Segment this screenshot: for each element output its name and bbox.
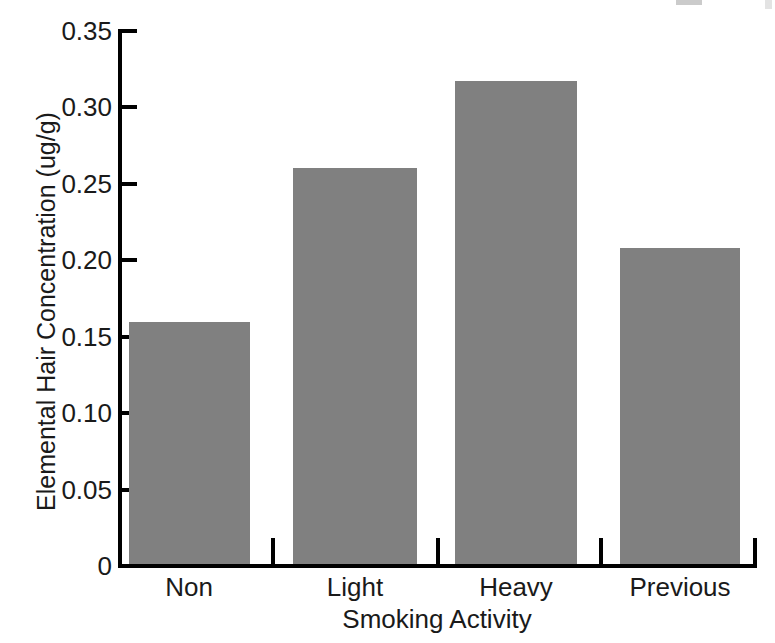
x-axis-title: Smoking Activity (118, 604, 756, 635)
y-tick-label-0.25: 0.25 (10, 169, 112, 200)
x-tick-label-light: Light (327, 572, 383, 603)
bar-light (293, 168, 417, 564)
y-tick-label-0.35: 0.35 (10, 16, 112, 47)
x-tick-1 (271, 538, 275, 566)
y-tick-label-0.15: 0.15 (10, 322, 112, 353)
x-tick-label-previous: Previous (629, 572, 730, 603)
y-tick-label-0.10: 0.10 (10, 398, 112, 429)
bar-non (129, 322, 250, 564)
y-tick-label-0: 0 (10, 551, 112, 582)
bar-chart-figure: Elemental Hair Concentration (ug/g) 0.35… (0, 0, 775, 643)
y-tick-label-0.05: 0.05 (10, 475, 112, 506)
x-tick-2 (436, 538, 440, 566)
x-tick-label-non: Non (165, 572, 213, 603)
y-tick-0.35 (122, 29, 137, 33)
y-tick-0.20 (122, 258, 137, 262)
scan-artifact-secondary (765, 0, 772, 9)
y-tick-0.30 (122, 105, 137, 109)
bar-previous (620, 248, 740, 564)
bar-heavy (455, 81, 577, 564)
x-tick-4 (753, 538, 757, 566)
y-tick-0.25 (122, 182, 137, 186)
x-tick-label-heavy: Heavy (479, 572, 553, 603)
x-tick-3 (599, 538, 603, 566)
y-tick-label-0.20: 0.20 (10, 245, 112, 276)
y-tick-label-0.30: 0.30 (10, 92, 112, 123)
scan-artifact (676, 0, 702, 5)
